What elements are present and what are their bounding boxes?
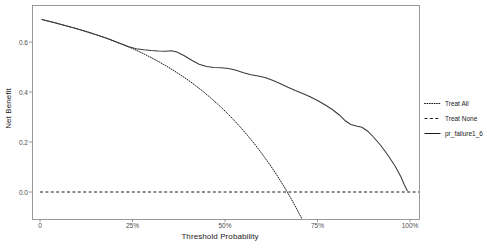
x-axis-title: Threshold Probability [0, 232, 440, 241]
legend-item-treat-all: Treat All [424, 98, 469, 109]
legend-key-dashed-line-icon [424, 114, 441, 123]
plot-canvas [0, 0, 487, 251]
y-tick-label: 0.6 [14, 39, 28, 46]
y-tick-label: 0.4 [14, 89, 28, 96]
x-tick-label: 0 [38, 222, 42, 229]
legend-key-dotted-line-icon [424, 99, 441, 108]
legend-key-solid-line-icon [424, 129, 441, 138]
legend-item-treat-none: Treat None [424, 113, 477, 124]
figure-caption [0, 244, 487, 251]
legend-label: pr_failure1_6 [445, 130, 483, 137]
chart-legend: Treat AllTreat Nonepr_failure1_6 [424, 98, 487, 144]
x-tick-label: 50% [218, 222, 231, 229]
x-tick-label: 100% [402, 222, 419, 229]
decision-curve-figure: Net Benefit Threshold Probability 025%50… [0, 0, 487, 251]
y-tick-label: 0.0 [14, 189, 28, 196]
legend-label: Treat None [445, 115, 477, 122]
x-tick-label: 25% [126, 222, 139, 229]
y-tick-label: 0.2 [14, 139, 28, 146]
x-tick-label: 75% [311, 222, 324, 229]
legend-label: Treat All [445, 100, 469, 107]
legend-item-pr-failure1-6: pr_failure1_6 [424, 128, 483, 139]
y-axis-tick-labels: 0.00.20.40.6 [8, 0, 28, 251]
